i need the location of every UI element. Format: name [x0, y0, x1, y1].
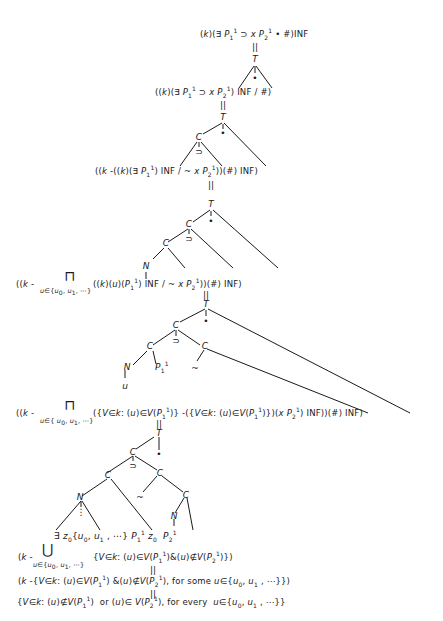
node-N: N — [143, 261, 150, 271]
equals-sign: || — [150, 565, 156, 575]
equals-sign: || — [252, 42, 258, 52]
node-T: T — [220, 112, 226, 122]
formula-4-subscript: u∈{u0, u1, ⋯} — [40, 286, 91, 296]
node-C: C — [105, 470, 111, 480]
horseshoe-symbol: ⊃ — [129, 461, 137, 471]
equals-sign: || — [208, 180, 214, 190]
formula-5: ({V∈k: (u)∈V(P11)} -({V∈k: (u)∈V(P11)})(… — [93, 408, 363, 418]
leaf-u: u — [122, 381, 128, 391]
node-dot: • — [220, 128, 225, 138]
node-C: C — [196, 132, 202, 142]
node-C: C — [147, 341, 153, 351]
node-N: N — [171, 511, 178, 521]
formula-3: ((k -((k)(∃ P11) INF / ~ x P21))(#) INF) — [95, 166, 258, 176]
union-operator: ⋃ — [42, 544, 54, 554]
intersection-operator: ⊓ — [64, 271, 75, 281]
formula-9: {V∈k: (u)∉V(P11) or (u)∈ V(P21), for eve… — [17, 597, 286, 607]
formula-7-prefix: (k - — [18, 552, 33, 562]
node-C: C — [186, 219, 192, 229]
node-T: T — [252, 54, 258, 64]
formula-5-prefix: ((k - — [16, 408, 34, 418]
node-C: C — [157, 468, 163, 478]
formula-1: (k)(∃ P11 ⊃ x P21 • #)INF — [200, 29, 308, 39]
node-N: N — [77, 492, 84, 502]
node-dot: • — [156, 449, 161, 459]
formula-4: ((k)(u)(P11) INF / ~ x P21))(#) INF) — [93, 279, 242, 289]
node-C: C — [163, 238, 169, 248]
formula-8: (k -{V∈k: (u)∈V(P11) &(u)∉V(P21), for so… — [18, 576, 290, 586]
formula-7: {V∈k: (u)∈V(P11)&(u)∉V(P21)}) — [93, 552, 233, 562]
equals-sign: || — [220, 100, 226, 110]
formula-5-subscript: u∈{ u0, u1, ⋯} — [40, 416, 94, 426]
node-T: T — [203, 299, 209, 309]
node-dot: • — [252, 73, 257, 83]
node-C: C — [202, 341, 208, 351]
formula-4-prefix: ((k - — [16, 279, 34, 289]
node-C: C — [183, 490, 189, 500]
horseshoe-symbol: ⊃ — [172, 336, 180, 346]
vertical-dots: ⋮ — [77, 507, 86, 517]
node-T: T — [208, 199, 214, 209]
node-dot: • — [208, 216, 213, 226]
intersection-operator: ⊓ — [64, 400, 75, 410]
tilde-symbol: ~ — [136, 492, 144, 502]
horseshoe-symbol: ⊃ — [185, 234, 193, 244]
node-T: T — [156, 428, 162, 438]
node-C: C — [173, 320, 179, 330]
horseshoe-symbol: ⊃ — [195, 147, 203, 157]
formula-2: ((k)(∃ P11 ⊃ x P21) INF / #) — [155, 87, 271, 97]
leaf-P11: P11 — [155, 362, 169, 372]
formula-6: ∃ z0{u0, u1 , ⋯} P11 z0 P21 — [54, 531, 177, 541]
formula-7-subscript: u∈{u0, u1, ⋯} — [33, 560, 84, 570]
node-dot: • — [203, 316, 208, 326]
tilde-symbol: ~ — [191, 363, 199, 373]
node-C: C — [130, 447, 136, 457]
node-N: N — [124, 362, 131, 372]
